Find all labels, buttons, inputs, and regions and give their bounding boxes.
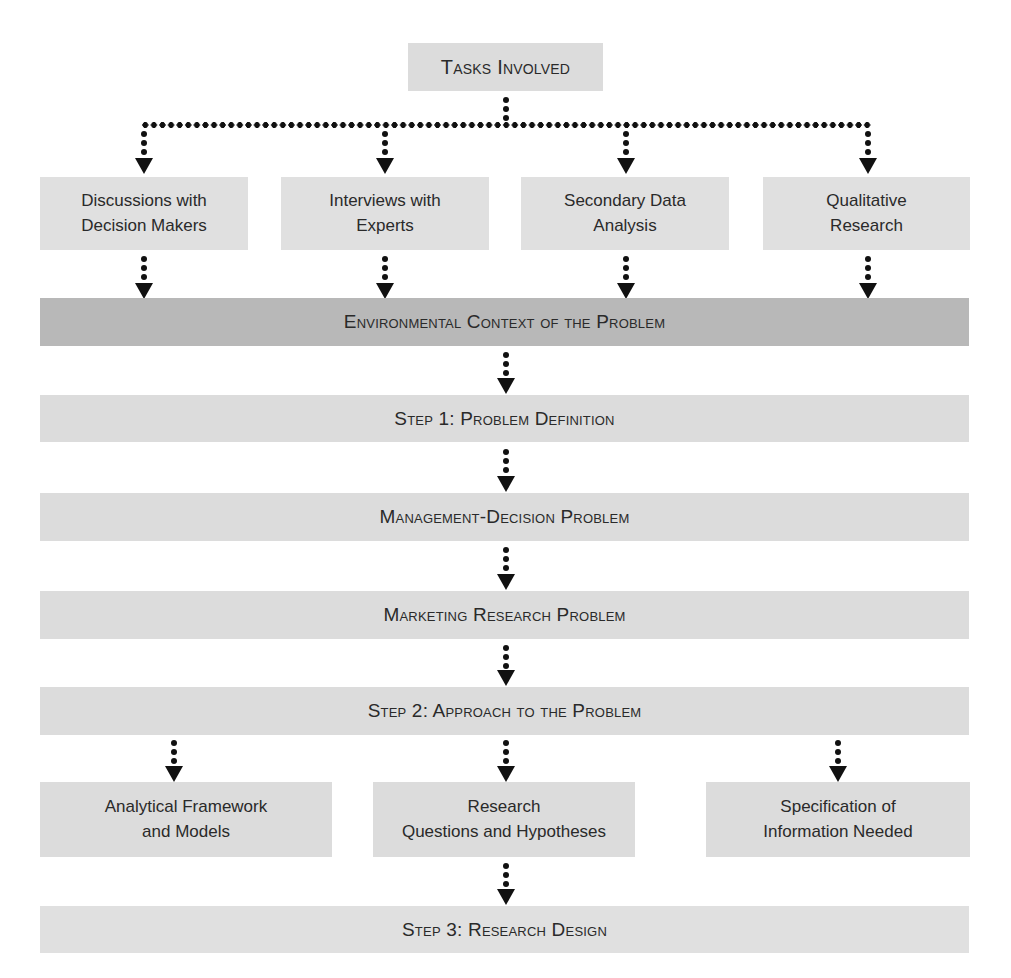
connector-step1-mgmt xyxy=(503,449,509,476)
task-text: Discussions with xyxy=(81,189,207,214)
task-text: Research xyxy=(826,214,906,239)
arrow-down-icon xyxy=(497,574,515,590)
arrow-down-icon xyxy=(829,766,847,782)
component-text: Research xyxy=(402,795,606,820)
connector-mktg-step2 xyxy=(503,645,509,672)
task-box-qualitative: QualitativeResearch xyxy=(763,177,970,250)
connector-drop-3 xyxy=(623,131,629,158)
arrow-down-icon xyxy=(497,766,515,782)
connector-mgmt-mktg xyxy=(503,547,509,574)
arrow-down-icon xyxy=(497,476,515,492)
connector-drop-2 xyxy=(382,131,388,158)
tasks-involved-box: Tasks Involved xyxy=(408,43,603,91)
arrow-down-icon xyxy=(376,283,394,299)
arrow-down-icon xyxy=(859,283,877,299)
component-analytical-framework: Analytical Frameworkand Models xyxy=(40,782,332,857)
connector-rq-step3 xyxy=(503,863,509,890)
arrow-down-icon xyxy=(617,158,635,174)
step3-label: Step 3: Research Design xyxy=(402,916,607,944)
connector-env-step1 xyxy=(503,352,509,379)
task-text: Secondary Data xyxy=(564,189,686,214)
arrow-down-icon xyxy=(135,158,153,174)
connector-top-stem xyxy=(503,97,509,124)
environmental-context-label: Environmental Context of the Problem xyxy=(344,308,665,336)
step2-label: Step 2: Approach to the Problem xyxy=(368,697,642,725)
arrow-down-icon xyxy=(135,283,153,299)
task-box-discussions: Discussions withDecision Makers xyxy=(40,177,248,250)
management-decision-bar: Management-Decision Problem xyxy=(40,493,969,541)
arrow-down-icon xyxy=(617,283,635,299)
connector-task-2 xyxy=(382,256,388,283)
task-text: Experts xyxy=(329,214,440,239)
connector-drop-1 xyxy=(141,131,147,158)
connector-drop-4 xyxy=(865,131,871,158)
step1-bar: Step 1: Problem Definition xyxy=(40,395,969,442)
connector-horizontal xyxy=(141,122,872,128)
task-text: Qualitative xyxy=(826,189,906,214)
arrow-down-icon xyxy=(497,889,515,905)
arrow-down-icon xyxy=(859,158,877,174)
step3-bar: Step 3: Research Design xyxy=(40,906,969,953)
component-text: Questions and Hypotheses xyxy=(402,820,606,845)
arrow-down-icon xyxy=(497,378,515,394)
management-decision-label: Management-Decision Problem xyxy=(380,503,630,531)
connector-step2-1 xyxy=(171,740,177,767)
component-text: Specification of xyxy=(763,795,912,820)
task-box-interviews: Interviews withExperts xyxy=(281,177,489,250)
connector-step2-2 xyxy=(503,740,509,767)
component-specification-information: Specification ofInformation Needed xyxy=(706,782,970,857)
task-text: Interviews with xyxy=(329,189,440,214)
component-research-questions: ResearchQuestions and Hypotheses xyxy=(373,782,635,857)
environmental-context-bar: Environmental Context of the Problem xyxy=(40,298,969,346)
arrow-down-icon xyxy=(497,670,515,686)
connector-task-4 xyxy=(865,256,871,283)
component-text: and Models xyxy=(105,820,268,845)
task-text: Analysis xyxy=(564,214,686,239)
component-text: Analytical Framework xyxy=(105,795,268,820)
connector-step2-3 xyxy=(835,740,841,767)
arrow-down-icon xyxy=(165,766,183,782)
task-text: Decision Makers xyxy=(81,214,207,239)
arrow-down-icon xyxy=(376,158,394,174)
marketing-research-bar: Marketing Research Problem xyxy=(40,591,969,639)
tasks-involved-label: Tasks Involved xyxy=(441,53,570,82)
marketing-research-label: Marketing Research Problem xyxy=(383,601,625,629)
step2-bar: Step 2: Approach to the Problem xyxy=(40,687,969,735)
step1-label: Step 1: Problem Definition xyxy=(394,405,614,433)
component-text: Information Needed xyxy=(763,820,912,845)
task-box-secondary-data: Secondary DataAnalysis xyxy=(521,177,729,250)
connector-task-3 xyxy=(623,256,629,283)
connector-task-1 xyxy=(141,256,147,283)
